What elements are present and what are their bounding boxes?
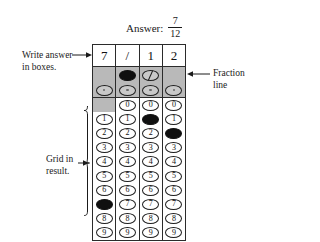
- digit-bubble[interactable]: 7: [119, 199, 136, 210]
- digit-bubble[interactable]: 6: [165, 185, 182, 196]
- digit-cell[interactable]: 4: [93, 155, 116, 169]
- digit-cell[interactable]: 9: [163, 226, 185, 240]
- digit-cell[interactable]: 8: [140, 212, 163, 226]
- digit-bubble[interactable]: 9: [142, 227, 159, 238]
- digit-bubble[interactable]: 5: [165, 171, 182, 182]
- digit-row: 4444: [93, 155, 185, 169]
- fraction-line-bubble[interactable]: [142, 70, 159, 81]
- digit-cell[interactable]: 6: [93, 183, 116, 197]
- digit-cell[interactable]: 8: [93, 212, 116, 226]
- digit-bubble-filled[interactable]: 2: [165, 128, 182, 139]
- digit-cell[interactable]: 2: [116, 126, 139, 140]
- fraction-line-bubble-filled[interactable]: [119, 70, 136, 81]
- digit-cell[interactable]: 4: [163, 155, 185, 169]
- digit-cell[interactable]: 2: [93, 126, 116, 140]
- written-answer-cell[interactable]: /: [116, 45, 139, 66]
- digit-bubble-filled[interactable]: 7: [96, 199, 113, 210]
- digit-cell[interactable]: 7: [140, 197, 163, 211]
- digit-cell[interactable]: 4: [140, 155, 163, 169]
- digit-bubble[interactable]: 4: [96, 156, 113, 167]
- digit-cell[interactable]: 4: [116, 155, 139, 169]
- digit-bubble[interactable]: 4: [119, 156, 136, 167]
- digit-cell[interactable]: 1: [93, 112, 116, 126]
- digit-cell[interactable]: 7: [116, 197, 139, 211]
- digit-cell[interactable]: 5: [93, 169, 116, 183]
- digit-cell[interactable]: 3: [163, 141, 185, 155]
- digit-bubble[interactable]: 0: [119, 100, 136, 111]
- digit-bubble[interactable]: 2: [142, 128, 159, 139]
- decimal-point-bubble[interactable]: [119, 85, 136, 96]
- digit-cell[interactable]: 0: [140, 98, 163, 112]
- digit-bubble-filled[interactable]: 1: [142, 114, 159, 125]
- digit-bubble[interactable]: 5: [119, 171, 136, 182]
- decimal-point-bubble[interactable]: [142, 85, 159, 96]
- digit-bubble[interactable]: 1: [119, 114, 136, 125]
- digit-cell[interactable]: 8: [116, 212, 139, 226]
- digit-cell[interactable]: 7: [93, 197, 116, 211]
- digit-row: 000: [93, 98, 185, 112]
- digit-bubble[interactable]: 1: [96, 114, 113, 125]
- digit-bubble[interactable]: 7: [142, 199, 159, 210]
- digit-cell[interactable]: 5: [163, 169, 185, 183]
- digit-bubble[interactable]: 6: [142, 185, 159, 196]
- digit-bubble[interactable]: 9: [96, 227, 113, 238]
- fraction-line-cell[interactable]: [140, 67, 163, 83]
- digit-bubble[interactable]: 5: [142, 171, 159, 182]
- written-answer-cell[interactable]: 2: [163, 45, 185, 66]
- decimal-point-bubble[interactable]: [96, 85, 113, 96]
- digit-cell[interactable]: 6: [140, 183, 163, 197]
- digit-cell[interactable]: 5: [116, 169, 139, 183]
- digit-bubble[interactable]: 2: [119, 128, 136, 139]
- digit-cell[interactable]: 8: [163, 212, 185, 226]
- digit-cell[interactable]: 1: [163, 112, 185, 126]
- written-answer-cell[interactable]: 1: [140, 45, 163, 66]
- digit-bubble[interactable]: 8: [119, 213, 136, 224]
- annotation-fraction-line: Fraction line: [213, 68, 245, 91]
- digit-row: 9999: [93, 226, 185, 240]
- digit-bubble[interactable]: 8: [165, 213, 182, 224]
- digit-bubble[interactable]: 9: [119, 227, 136, 238]
- decimal-point-cell[interactable]: [140, 83, 163, 97]
- digit-cell[interactable]: 3: [116, 141, 139, 155]
- digit-cell[interactable]: 5: [140, 169, 163, 183]
- digit-cell[interactable]: 0: [116, 98, 139, 112]
- decimal-point-cell[interactable]: [93, 83, 116, 97]
- digit-cell[interactable]: 3: [93, 141, 116, 155]
- digit-cell[interactable]: 9: [93, 226, 116, 240]
- digit-cell[interactable]: 9: [140, 226, 163, 240]
- digit-bubble[interactable]: 0: [165, 100, 182, 111]
- digit-bubble[interactable]: 4: [142, 156, 159, 167]
- written-answer-cell[interactable]: 7: [93, 45, 116, 66]
- digit-cell[interactable]: 1: [140, 112, 163, 126]
- fraction-line-cell[interactable]: [116, 67, 139, 83]
- digit-bubble[interactable]: 9: [165, 227, 182, 238]
- digit-cell[interactable]: 6: [163, 183, 185, 197]
- decimal-point-cell[interactable]: [163, 83, 185, 97]
- digit-bubble[interactable]: 6: [119, 185, 136, 196]
- digit-cell[interactable]: 6: [116, 183, 139, 197]
- digit-cell[interactable]: 0: [163, 98, 185, 112]
- digit-cell[interactable]: 3: [140, 141, 163, 155]
- digit-bubble[interactable]: 3: [142, 142, 159, 153]
- digit-bubble[interactable]: 5: [96, 171, 113, 182]
- digit-cell[interactable]: 1: [116, 112, 139, 126]
- digit-bubble[interactable]: 2: [96, 128, 113, 139]
- digit-bubble[interactable]: 0: [142, 100, 159, 111]
- digit-bubble[interactable]: 4: [165, 156, 182, 167]
- digit-bubble[interactable]: 7: [165, 199, 182, 210]
- digit-bubble[interactable]: 1: [165, 114, 182, 125]
- digit-cell[interactable]: 2: [163, 126, 185, 140]
- digit-bubble[interactable]: 3: [96, 142, 113, 153]
- digit-cell[interactable]: 2: [140, 126, 163, 140]
- digit-row: 5555: [93, 169, 185, 183]
- decimal-point-cell[interactable]: [116, 83, 139, 97]
- digit-bubble[interactable]: 6: [96, 185, 113, 196]
- digit-bubble[interactable]: 3: [165, 142, 182, 153]
- digit-row: 2222: [93, 126, 185, 140]
- digit-bubble[interactable]: 8: [142, 213, 159, 224]
- digit-cell[interactable]: 7: [163, 197, 185, 211]
- digit-bubble[interactable]: 3: [119, 142, 136, 153]
- decimal-point-bubble[interactable]: [165, 85, 182, 96]
- digit-bubble[interactable]: 8: [96, 213, 113, 224]
- digit-cell[interactable]: 9: [116, 226, 139, 240]
